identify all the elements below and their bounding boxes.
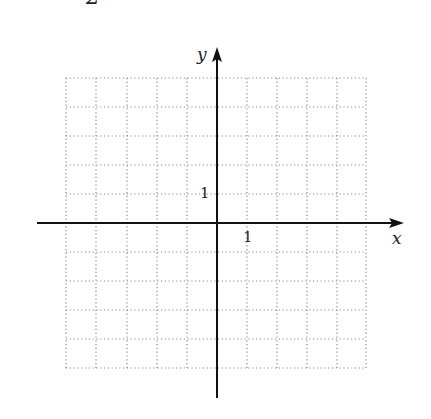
graph-canvas — [0, 0, 431, 419]
y-axis-label: y — [197, 46, 207, 63]
y-tick-label: 1 — [200, 186, 210, 201]
x-axis-label: x — [392, 230, 402, 247]
x-tick-label: 1 — [243, 230, 253, 245]
coordinate-plane-figure: 2 — [0, 0, 431, 419]
